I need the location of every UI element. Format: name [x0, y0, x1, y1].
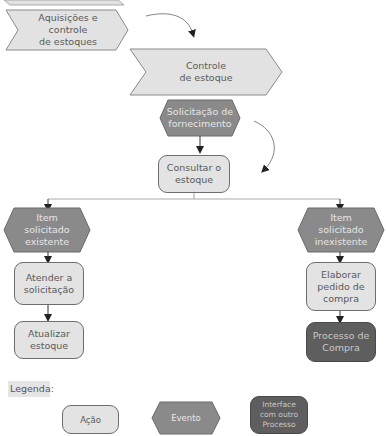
- node-consultar-label: Consultar o estoque: [158, 155, 230, 193]
- legend-interface-label: Interface com outro Processo: [250, 396, 308, 434]
- node-controle-label: Controle de estoque: [146, 49, 266, 95]
- node-atualizar-label: Atualizar estoque: [14, 321, 84, 359]
- node-solicitacao-label: Solicitação de fornecimento: [160, 100, 240, 136]
- curved-arrow-2: [254, 121, 274, 170]
- curved-arrow-1: [146, 14, 193, 34]
- node-existente-label: Item solicitado existente: [4, 208, 90, 252]
- cropped-process-shape: [4, 0, 124, 5]
- node-aquisicoes-label: Aquisições e controle de estoques: [18, 10, 118, 50]
- legend-action-label: Ação: [62, 405, 119, 434]
- node-elaborar-label: Elaborar pedido de compra: [306, 262, 376, 311]
- legend-event-label: Evento: [152, 402, 220, 434]
- node-inexistente-label: Item solicitado inexistente: [298, 208, 384, 252]
- legend-title: Legenda:: [8, 381, 50, 397]
- node-processo-compra-label: Processo de Compra: [306, 322, 376, 362]
- node-atender-label: Atender a solicitação: [14, 262, 84, 305]
